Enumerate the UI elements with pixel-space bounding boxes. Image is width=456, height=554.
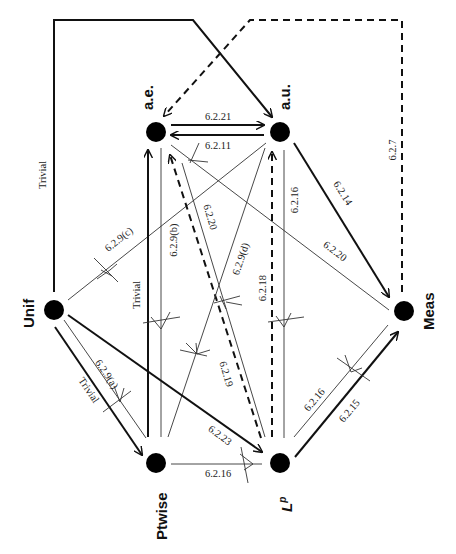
negation-mark [94,258,118,282]
edge-ptwise-lp-6-2-16: 6.2.16 [171,447,262,483]
edge-label: 6.2.23 [206,423,234,447]
node-label-au: a.u. [276,84,293,110]
edge-label: 6.2.20 [201,203,219,231]
node-unif: Unif [20,298,64,328]
edge-ae-au-6-2-21: 6.2.21 [171,111,264,125]
edge-label: Trivial [131,281,142,309]
edge-label: 6.2.16 [289,187,300,213]
edge-lp-au-6-2-18: 6.2.18 [257,152,272,437]
edge-label: Trivial [37,161,48,189]
node-ptwise: Ptwise [146,453,170,540]
lp-superscript: p [277,497,288,504]
edge-label: 6.2.9(b) [168,223,180,257]
negation-mark [103,386,131,412]
node-meas: Meas [394,292,437,330]
edge-unif-au-6-2-9c: 6.2.9(c) [68,143,266,300]
negation-mark [337,355,370,381]
edge-label: 6.2.16 [302,386,327,413]
edge-label: 6.2.19 [217,360,235,388]
node-label-lp: Lp [277,497,295,512]
edge-label: 6.2.16 [205,468,231,479]
edge-au-lp-6-2-16: 6.2.16 [268,150,304,438]
edge-au-ae-6-2-11: 6.2.11 [171,135,264,163]
edge-ptwise-ae-trivial: Trivial [131,150,148,437]
edge-label: 6.2.20 [321,239,349,264]
negation-mark [240,447,253,483]
edge-label: 6.2.18 [257,275,268,301]
edge-label: 6.2.9(a) [92,357,120,391]
lp-base: L [278,503,295,512]
node-label-meas: Meas [420,292,437,330]
edge-ae-meas-6-2-20: 6.2.20 [171,145,389,310]
edge-label: 6.2.14 [331,179,355,208]
node-label-ptwise: Ptwise [153,492,170,540]
node-lp: Lp [270,453,295,512]
edge-ptwise-unif-6-2-9a: 6.2.9(a) [64,320,146,438]
convergence-implication-diagram: Trivial 6.2.7 6.2.21 6.2.11 6.2.20 6.2.1… [0,0,456,554]
edge-label: 6.2.7 [387,140,398,161]
node-label-unif: Unif [20,298,37,328]
negation-mark [268,313,304,327]
edge-unif-ptwise-trivial: Trivial [55,327,142,455]
node-au: a.u. [270,84,293,142]
negation-mark [180,343,210,356]
edge-meas-ae-6-2-7: 6.2.7 [164,20,402,292]
edge-ae-lp-6-2-20: 6.2.20 [182,163,265,437]
edge-label: 6.2.9(d) [230,241,252,277]
node-ae: a.e. [139,85,166,142]
node-label-ae: a.e. [139,85,156,110]
edge-label: 6.2.21 [205,111,231,122]
edge-label: 6.2.11 [205,140,231,151]
